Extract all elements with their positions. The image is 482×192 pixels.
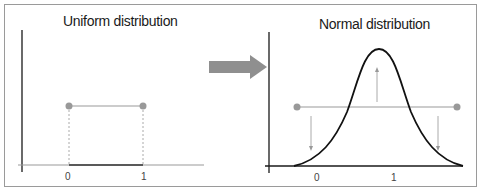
uniform-tick-0: 0 xyxy=(65,171,71,182)
uniform-tick-1: 1 xyxy=(141,171,147,182)
up-arrow-icon xyxy=(375,67,379,102)
down-arrow-right-icon xyxy=(436,116,440,151)
normal-tick-0: 0 xyxy=(314,172,320,183)
down-arrow-left-icon xyxy=(309,116,313,151)
transform-arrow-icon xyxy=(209,55,267,79)
normal-tick-1: 1 xyxy=(391,172,397,183)
uniform-segment xyxy=(66,103,147,166)
uniform-axes xyxy=(18,30,204,172)
normal-title: Normal distribution xyxy=(319,16,430,32)
overlaid-uniform-line xyxy=(294,104,461,111)
normal-axes xyxy=(265,32,463,173)
uniform-title: Uniform distribution xyxy=(63,13,178,29)
